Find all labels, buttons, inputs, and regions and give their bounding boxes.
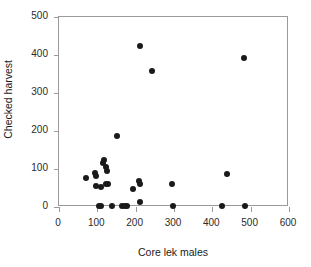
x-axis-label: Core lek males bbox=[58, 246, 288, 258]
y-axis-tick-label: 100 bbox=[14, 163, 48, 173]
y-axis-tick bbox=[54, 55, 59, 56]
x-axis-tick-label: 0 bbox=[41, 218, 75, 228]
x-axis-tick bbox=[251, 207, 252, 212]
x-axis-tick bbox=[136, 207, 137, 212]
x-axis-tick bbox=[59, 207, 60, 212]
y-axis-tick-label: 400 bbox=[14, 49, 48, 59]
x-axis-tick bbox=[97, 207, 98, 212]
plot-area-frame bbox=[58, 16, 288, 206]
y-axis-tick bbox=[54, 17, 59, 18]
y-axis-tick-label: 200 bbox=[14, 125, 48, 135]
y-axis-tick-label: 300 bbox=[14, 87, 48, 97]
x-axis-tick-label: 400 bbox=[194, 218, 228, 228]
x-axis-tick-label: 100 bbox=[79, 218, 113, 228]
x-axis-tick bbox=[212, 207, 213, 212]
y-axis-tick bbox=[54, 131, 59, 132]
x-axis-tick bbox=[174, 207, 175, 212]
x-axis-tick bbox=[289, 207, 290, 212]
y-axis-tick bbox=[54, 93, 59, 94]
x-axis-tick-label: 500 bbox=[233, 218, 267, 228]
x-axis-tick-label: 600 bbox=[271, 218, 305, 228]
y-axis-tick bbox=[54, 169, 59, 170]
x-axis-tick-label: 300 bbox=[156, 218, 190, 228]
scatter-plot-figure: Core lek males Checked harvest 010020030… bbox=[0, 0, 311, 267]
x-axis-tick-label: 200 bbox=[118, 218, 152, 228]
y-axis-tick-label: 0 bbox=[14, 201, 48, 211]
y-axis-tick-label: 500 bbox=[14, 11, 48, 21]
